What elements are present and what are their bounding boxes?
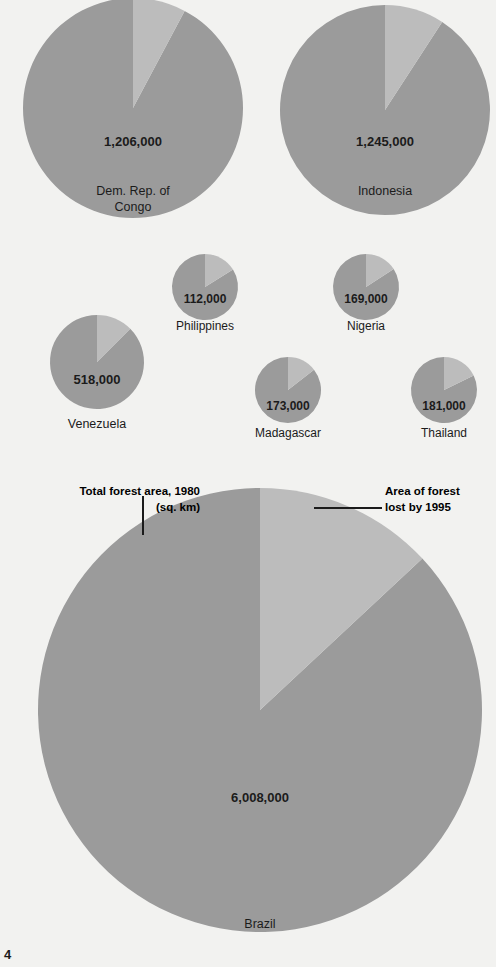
legend-left-line1: Total forest area, 1980 [79, 485, 200, 497]
pie-value-label: 173,000 [266, 399, 310, 413]
pie-value-label: 1,206,000 [104, 134, 162, 149]
pie-country-label: Dem. Rep. of [96, 184, 170, 198]
pie-value-label: 6,008,000 [231, 790, 289, 805]
pie-value-label: 1,245,000 [356, 134, 414, 149]
pie-chart-madagascar: 173,000Madagascar [255, 357, 321, 440]
pie-chart-dem-rep-of-congo: 1,206,000Dem. Rep. ofCongo [23, 0, 243, 218]
page-number: 4 [4, 948, 11, 961]
legend-left-line2: (sq. km) [156, 501, 200, 513]
pie-country-label: Thailand [421, 426, 467, 440]
pie-value-label: 169,000 [344, 292, 388, 306]
pie-country-label: Nigeria [347, 319, 385, 333]
legend-right-line1: Area of forest [385, 485, 460, 497]
pie-country-label: Congo [115, 200, 152, 214]
legend-right-line2: lost by 1995 [385, 501, 451, 513]
pie-value-label: 181,000 [422, 399, 466, 413]
pie-value-label: 112,000 [184, 292, 227, 306]
pie-chart-indonesia: 1,245,000Indonesia [280, 5, 490, 215]
pie-chart-philippines: 112,000Philippines [172, 254, 238, 333]
pie-country-label: Brazil [244, 917, 275, 931]
forest-area-pie-infographic: 1,206,000Dem. Rep. ofCongo1,245,000Indon… [0, 0, 496, 967]
pie-country-label: Philippines [176, 319, 234, 333]
pie-chart-brazil: 6,008,000Brazil [38, 488, 482, 932]
pie-value-label: 518,000 [74, 372, 121, 387]
pie-country-label: Indonesia [358, 184, 412, 198]
pie-country-label: Venezuela [68, 417, 126, 431]
pie-country-label: Madagascar [255, 426, 321, 440]
